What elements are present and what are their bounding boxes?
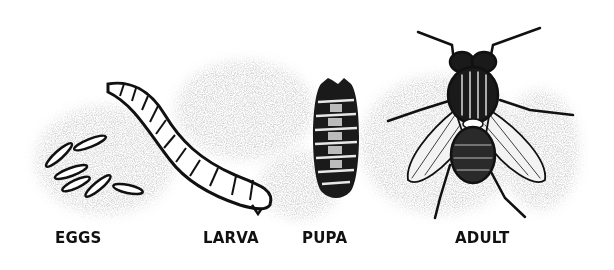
label-pupa: PUPA	[302, 229, 347, 247]
pupa-icon	[313, 78, 359, 198]
label-adult: ADULT	[455, 229, 510, 247]
label-larva: LARVA	[203, 229, 259, 247]
fly-life-cycle-diagram: EGGS LARVA PUPA ADULT	[0, 0, 614, 270]
label-eggs: EGGS	[55, 229, 101, 247]
